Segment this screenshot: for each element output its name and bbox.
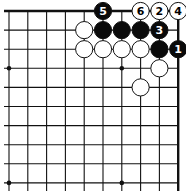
star-point [7,181,12,186]
black-stone [132,22,149,39]
stone-disc [132,22,149,39]
stone-disc [113,41,130,58]
white-stone: 2 [151,2,168,19]
stone-disc [151,60,168,77]
stone-disc [94,41,111,58]
move-number: 5 [99,5,107,18]
white-stone: 6 [132,2,149,19]
stone-disc [94,22,111,39]
move-number: 6 [137,5,145,18]
stones-layer: 562431 [76,2,186,96]
stone-disc [132,41,149,58]
move-number: 3 [156,24,164,37]
go-board: 562431 [0,0,186,191]
black-stone: 1 [170,41,186,58]
white-stone [76,22,93,39]
black-stone [151,41,168,58]
star-point [120,181,125,186]
white-stone [132,41,149,58]
stone-disc [151,41,168,58]
black-stone: 5 [94,2,111,19]
white-stone [76,41,93,58]
white-stone [132,79,149,96]
white-stone [113,41,130,58]
star-point [120,66,125,71]
stone-disc [113,22,130,39]
stone-disc [76,41,93,58]
move-number: 2 [156,5,164,18]
black-stone [94,22,111,39]
white-stone: 4 [170,2,186,19]
move-number: 1 [174,43,182,56]
black-stone: 3 [151,22,168,39]
black-stone [113,22,130,39]
board-grid [4,11,178,191]
stone-disc [76,22,93,39]
star-point [7,66,12,71]
stone-disc [132,79,149,96]
white-stone [94,41,111,58]
move-number: 4 [174,5,182,18]
white-stone [151,60,168,77]
